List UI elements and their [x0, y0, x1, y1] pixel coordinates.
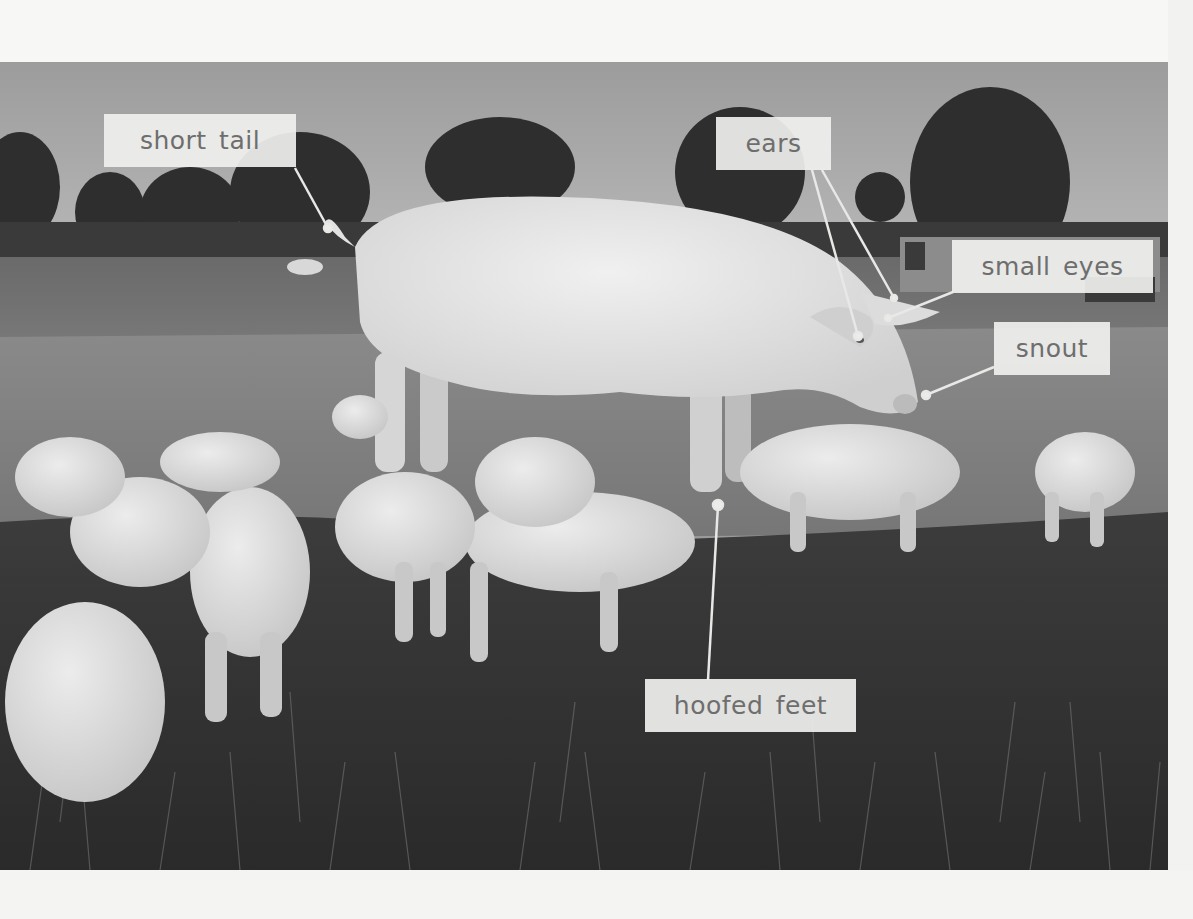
label-short-tail: short tail	[104, 114, 296, 167]
label-ears: ears	[716, 117, 831, 170]
label-hoofed-feet-text: hoofed feet	[674, 691, 827, 720]
label-short-tail-text: short tail	[140, 126, 260, 155]
label-ears-text: ears	[745, 129, 801, 158]
label-snout-text: snout	[1016, 334, 1088, 363]
pig-photograph	[0, 62, 1168, 870]
label-small-eyes: small eyes	[952, 240, 1153, 293]
page-margin-bottom	[0, 870, 1193, 919]
label-hoofed-feet: hoofed feet	[645, 679, 856, 732]
label-small-eyes-text: small eyes	[981, 252, 1123, 281]
page-margin-right	[1168, 0, 1193, 919]
label-snout: snout	[994, 322, 1110, 375]
